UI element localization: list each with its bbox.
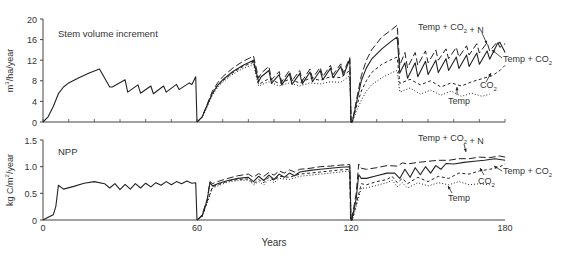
series-temp-co2 [197,37,505,122]
x-tick-label: 60 [192,223,202,233]
y-tick-label: 1.5 [24,136,37,146]
annotation-label: CO2 [480,80,498,92]
y-tick-label: 20 [27,15,37,25]
arrowhead-icon [455,87,458,90]
y-tick-label: 1.0 [24,162,37,172]
y-tick-label: 16 [27,35,37,45]
stem-volume-panel: 048121620m3/ha/yearStem volume increment… [4,15,553,128]
series-baseline [43,69,197,122]
x-axis-label: Years [261,237,286,248]
annotation-label: Temp [448,193,470,203]
y-tick-label: 0 [32,118,37,128]
y-tick-label: 12 [27,56,37,66]
y-axis-label: m3/ha/year [4,49,15,92]
annotation-label: Temp + CO2 + N [418,133,484,146]
annotation-label: Temp + CO2 [503,54,553,66]
npp-panel: 00.51.01.5060120180kg C/m2/yearNPPTemp +… [4,133,553,233]
annotation-label: Temp + CO2 + N [418,22,484,35]
panel-title: NPP [58,146,78,157]
y-tick-label: 0 [32,216,37,226]
y-tick-label: 0.5 [24,189,37,199]
x-tick-label: 180 [498,223,513,233]
chart-figure: 048121620m3/ha/yearStem volume increment… [0,0,563,259]
annotation-label: Temp [448,96,470,106]
panel-title: Stem volume increment [58,28,158,39]
annotation-label: CO2 [478,176,496,188]
series-baseline [43,181,197,220]
y-tick-label: 4 [32,97,37,107]
x-tick-label: 0 [40,223,45,233]
y-axis-label: kg C/m2/year [4,154,15,206]
annotation-label: Temp + CO2 [503,166,553,178]
x-tick-label: 120 [344,223,359,233]
y-tick-label: 8 [32,76,37,86]
